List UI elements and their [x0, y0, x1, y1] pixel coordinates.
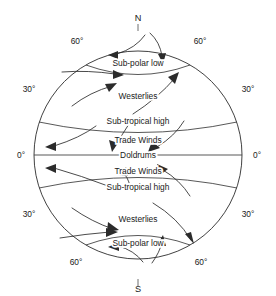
zone-label-doldrums: Doldrums [120, 150, 156, 160]
latitude-label-30n-right: 30° [242, 84, 255, 94]
latitude-label-60s-left: 60° [70, 257, 83, 267]
zone-label-westerlies-south: Westerlies [119, 214, 158, 224]
diagram-page: N S 60° 60° 30° 30° 0° 0° 30° 30° 60° 60… [0, 0, 276, 296]
latitude-label-30s-left: 30° [23, 209, 36, 219]
north-pole-label: N [135, 13, 142, 23]
flow-westerly-s-right [153, 203, 191, 240]
zone-label-subpolar-low-north: Sub-polar low [112, 58, 164, 68]
latitude-label-30s-right: 30° [242, 209, 255, 219]
flow-polar-easterly-s-left [118, 246, 143, 262]
zone-label-group: Sub-polar low Westerlies Sub-tropical hi… [107, 58, 170, 248]
arrowhead-trade-n-left [45, 142, 56, 151]
flow-westerly-n-left [72, 86, 112, 106]
arrowhead-westerly-s-right [185, 232, 194, 244]
latitude-label-60n-left: 60° [71, 36, 84, 46]
zone-label-subpolar-low-south: Sub-polar low [112, 238, 164, 248]
arrowhead-westerly-n-far-left [113, 70, 124, 79]
arrowhead-westerly-n-left [105, 83, 117, 92]
flow-westerly-s-left [72, 208, 113, 229]
zone-label-westerlies-north: Westerlies [119, 91, 158, 101]
flow-trade-n-left [54, 126, 96, 146]
latitude-label-equator-right: 0° [253, 150, 261, 160]
zone-label-subtropical-high-north: Sub-tropical high [107, 116, 170, 126]
flow-westerly-s-far-left [60, 232, 110, 238]
latitude-label-60s-right: 60° [195, 257, 208, 267]
south-pole-label: S [135, 284, 141, 294]
zone-label-subtropical-high-south: Sub-tropical high [107, 182, 170, 192]
latitude-label-60n-right: 60° [194, 36, 207, 46]
flow-westerly-n-far-left [62, 71, 115, 74]
latitude-label-equator-left: 0° [17, 150, 25, 160]
arrowhead-trade-s-left [45, 164, 56, 173]
global-circulation-diagram: N S 60° 60° 30° 30° 0° 0° 30° 30° 60° 60… [0, 0, 276, 296]
arrowhead-westerly-n-right [168, 72, 179, 84]
latitude-label-30n-left: 30° [23, 84, 36, 94]
zone-label-trade-winds-south: Trade Winds [114, 166, 161, 176]
zone-label-trade-winds-north: Trade Winds [114, 135, 161, 145]
